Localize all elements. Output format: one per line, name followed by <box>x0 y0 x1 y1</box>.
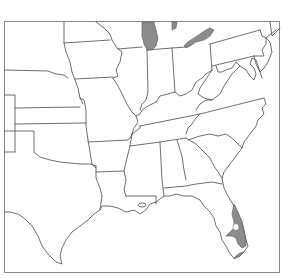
lake-okeechobee <box>233 224 239 231</box>
range-map <box>0 0 289 278</box>
